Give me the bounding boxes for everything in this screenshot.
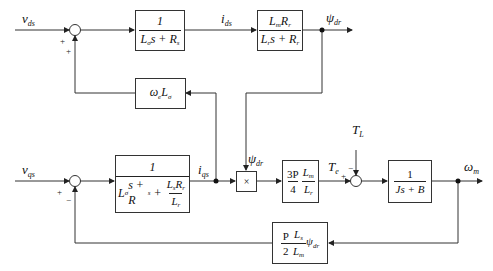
psi-dr-tap-dot	[320, 28, 325, 33]
block-mechanical-transfer: 1Js + B	[388, 160, 432, 203]
block-cross-coupling: ωeLσ	[135, 78, 186, 109]
block-multiplier: ×	[236, 171, 257, 192]
sign-q-input: +	[57, 188, 62, 197]
label-omega-m: ωm	[464, 160, 479, 176]
sign-d-feedback: +	[66, 47, 71, 56]
label-iqs: iqs	[198, 163, 209, 179]
sign-torque-input: +	[341, 172, 346, 181]
omega-tap-dot	[456, 179, 461, 184]
label-psi-dr-mult: ψdr	[248, 152, 263, 168]
iqs-tap-dot	[214, 179, 219, 184]
label-te: Te	[328, 160, 339, 176]
block-back-emf-feedback: P2 LsLm ψdr	[272, 222, 328, 264]
block-d-current-transfer: 1 Lσs + Rs	[135, 10, 185, 51]
sum-junction-q	[70, 176, 81, 187]
label-psi-dr: ψdr	[326, 11, 341, 27]
psi-dr-feed	[246, 30, 322, 170]
label-tl: TL	[352, 123, 364, 139]
block-rotor-flux-transfer: LmRr Lrs + Rr	[257, 10, 303, 51]
cross-coupling-feedback	[75, 36, 135, 93]
block-q-current-transfer: 1 Lσs + Rs + LsRr Lr	[115, 155, 190, 213]
diagram-wiring	[0, 0, 493, 271]
label-vqs: vqs	[22, 163, 35, 179]
sum-junction-d	[70, 25, 81, 36]
block-torque-gain: 3P4 LmLr	[282, 160, 319, 203]
label-vds: vds	[22, 12, 35, 28]
sign-q-feedback: −	[66, 196, 71, 205]
sign-load-torque: −	[348, 164, 353, 173]
sum-junction-torque	[351, 176, 362, 187]
sign-d-input: +	[60, 37, 65, 46]
label-ids: ids	[221, 12, 232, 28]
